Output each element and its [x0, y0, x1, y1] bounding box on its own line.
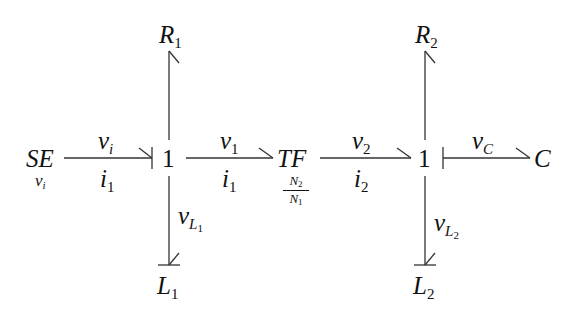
node-junction-1: 1 — [162, 146, 175, 171]
vl2-index: L2 — [445, 223, 459, 239]
node-l1: L1 — [157, 273, 178, 302]
node-r1: R1 — [159, 22, 182, 51]
bond-j1-tf-effort: v1 — [220, 128, 239, 157]
bond-j1-l1-effort: vL1 — [178, 203, 203, 234]
tf-ratio-num: N2 — [289, 174, 302, 189]
half-arrow-j1-tf — [259, 148, 273, 158]
bond-j1-tf-flow: i1 — [222, 166, 236, 195]
bond-tf-j2-flow: i2 — [354, 166, 368, 195]
bond-j2-c-effort: vC — [472, 128, 493, 157]
half-arrow-se-j1 — [139, 148, 152, 158]
junction-1-label: 1 — [162, 145, 175, 172]
node-se-sublabel: vi — [35, 172, 46, 191]
half-arrow-j2-l2 — [425, 253, 435, 265]
bond-j2-l2-effort: vL2 — [434, 210, 459, 241]
se-sub-index: i — [43, 179, 46, 191]
half-arrow-j1-r1 — [169, 51, 179, 63]
half-arrow-j2-c — [516, 148, 530, 158]
node-se-label: SE — [26, 145, 54, 172]
node-se: SE — [26, 146, 54, 171]
node-r2: R2 — [415, 22, 438, 51]
node-l2: L2 — [413, 273, 434, 302]
bond-se-j1-flow: i1 — [100, 166, 114, 195]
tf-ratio-den: N1 — [289, 192, 302, 207]
se-sub-v: v — [35, 171, 43, 190]
c-label: C — [534, 145, 551, 172]
node-junction-2: 1 — [418, 146, 431, 171]
half-arrow-j2-r2 — [425, 51, 435, 63]
half-arrow-j1-l1 — [169, 253, 179, 265]
bond-tf-j2-effort: v2 — [352, 128, 371, 157]
half-arrow-tf-j2 — [397, 148, 411, 158]
tf-label: TF — [277, 145, 306, 172]
bond-se-j1-effort: vi — [98, 128, 113, 157]
tf-ratio: N2 N1 — [283, 174, 309, 207]
vl1-index: L1 — [189, 216, 203, 232]
node-tf: TF — [277, 146, 306, 171]
node-c: C — [534, 146, 551, 171]
junction-2-label: 1 — [418, 145, 431, 172]
